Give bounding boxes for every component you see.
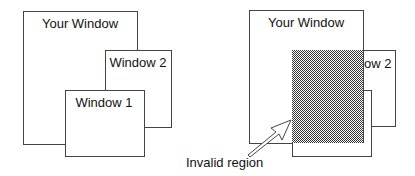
diagram-canvas: Your Window Window 2 Window 1 Your Windo… bbox=[0, 0, 415, 176]
window-2-label: Window 2 bbox=[109, 55, 166, 70]
your-window-label: Your Window bbox=[42, 16, 119, 31]
right-diagram: Your Window ow 2 Invalid region bbox=[186, 11, 396, 171]
window-2-partial-label: ow 2 bbox=[364, 56, 391, 71]
window-1-label: Window 1 bbox=[75, 95, 132, 110]
invalid-region-label: Invalid region bbox=[186, 155, 263, 170]
invalid-region-hatch bbox=[292, 50, 363, 143]
left-diagram: Your Window Window 2 Window 1 bbox=[24, 12, 172, 157]
your-window-label: Your Window bbox=[268, 15, 345, 30]
